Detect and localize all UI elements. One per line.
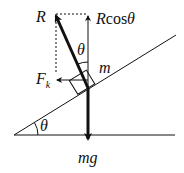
incline-force-diagram: R Rcosθ θ m Fk θ mg	[0, 0, 184, 173]
top-angle-arc	[78, 62, 89, 64]
label-theta-base: θ	[40, 117, 48, 134]
label-R: R	[35, 8, 46, 25]
label-m: m	[99, 59, 111, 76]
base-angle-arc	[35, 123, 39, 135]
label-Rcos-theta: Rcosθ	[95, 10, 135, 27]
label-mg: mg	[78, 149, 98, 167]
label-theta-top: θ	[77, 41, 85, 58]
label-Fk: Fk	[35, 70, 51, 90]
